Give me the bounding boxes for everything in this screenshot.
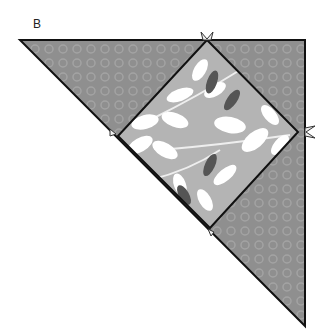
quilt-diagram xyxy=(0,0,333,331)
outer-triangle xyxy=(20,40,305,326)
right-notch-icon xyxy=(305,126,315,138)
top-notch-icon xyxy=(201,32,213,40)
